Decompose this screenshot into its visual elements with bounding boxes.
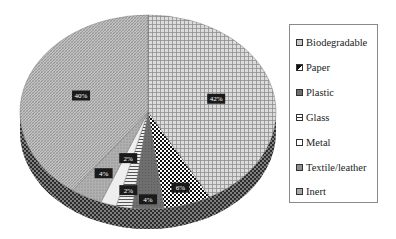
pie-chart: 42%6%4%2%2%4%40% <box>0 0 280 239</box>
legend-label: Biodegradable <box>306 37 367 48</box>
svg-text:40%: 40% <box>75 92 88 100</box>
legend-swatch-icon <box>296 139 303 146</box>
legend-item-biodegradable: Biodegradable <box>296 37 367 48</box>
data-label: 40% <box>72 91 90 101</box>
legend-swatch-icon <box>296 188 303 195</box>
legend-item-plastic: Plastic <box>296 87 334 98</box>
legend-swatch-icon <box>296 114 303 121</box>
pie-slices <box>20 15 276 209</box>
chart-legend: Biodegradable Paper Plastic Glass Metal … <box>289 24 378 203</box>
legend-label: Inert <box>306 186 326 197</box>
legend-swatch-icon <box>296 64 303 71</box>
legend-label: Textile/leather <box>306 162 366 173</box>
legend-label: Paper <box>306 62 330 73</box>
legend-label: Metal <box>306 137 331 148</box>
legend-item-inert: Inert <box>296 186 326 197</box>
legend-item-textile-leather: Textile/leather <box>296 162 366 173</box>
legend-label: Glass <box>306 112 329 123</box>
svg-text:2%: 2% <box>124 155 134 163</box>
legend-swatch-icon <box>296 89 303 96</box>
svg-text:4%: 4% <box>143 196 153 204</box>
svg-text:4%: 4% <box>99 170 109 178</box>
svg-text:42%: 42% <box>210 95 223 103</box>
data-label: 2% <box>119 153 137 163</box>
data-label: 4% <box>95 168 113 178</box>
legend-label: Plastic <box>306 87 334 98</box>
data-label: 2% <box>119 185 137 195</box>
data-label: 42% <box>207 94 225 104</box>
legend-item-paper: Paper <box>296 62 330 73</box>
legend-item-glass: Glass <box>296 112 329 123</box>
legend-item-metal: Metal <box>296 137 331 148</box>
legend-swatch-icon <box>296 164 303 171</box>
svg-text:2%: 2% <box>124 187 134 195</box>
legend-swatch-icon <box>296 39 303 46</box>
data-label: 4% <box>139 194 157 204</box>
svg-text:6%: 6% <box>176 184 186 192</box>
data-label: 6% <box>171 183 189 193</box>
